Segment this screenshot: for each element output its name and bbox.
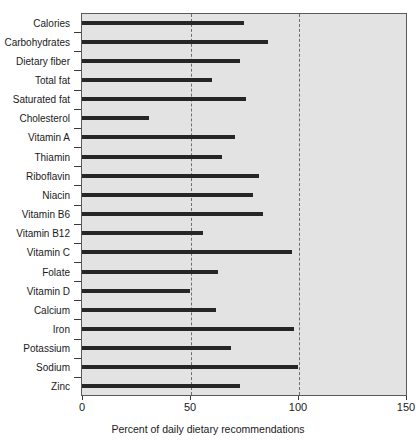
bar [82,78,212,82]
y-axis-label: Total fat [35,75,70,86]
bar [82,308,216,312]
bar [82,59,240,63]
y-axis-label: Riboflavin [26,170,70,181]
bar [82,155,222,159]
y-axis-label: Vitamin B12 [16,228,70,239]
y-axis-label: Folate [42,266,70,277]
y-tick [74,377,81,378]
y-tick [74,224,81,225]
bar [82,231,203,235]
x-axis-tick-label: 0 [79,400,85,414]
bars-layer [81,13,407,396]
bar [82,270,218,274]
bar [82,97,246,101]
y-tick [74,109,81,110]
y-tick [74,70,81,71]
y-axis-label: Calcium [34,304,70,315]
y-axis-label: Dietary fiber [16,55,70,66]
y-axis-label: Vitamin B6 [22,209,70,220]
y-axis-label: Vitamin D [27,285,70,296]
y-tick [74,300,81,301]
y-axis-label: Carbohydrates [4,36,70,47]
y-tick [74,185,81,186]
bar [82,289,190,293]
bar [82,116,149,120]
bar [82,327,294,331]
y-tick [74,339,81,340]
x-axis-tick-label: 100 [289,400,307,414]
y-axis-label: Sodium [36,362,70,373]
bar [82,135,235,139]
y-tick [74,51,81,52]
bar [82,174,259,178]
y-tick [74,147,81,148]
bar [82,193,253,197]
bar [82,21,244,25]
bar [82,250,292,254]
bar [82,40,268,44]
y-axis-label: Saturated fat [13,94,70,105]
y-tick [74,358,81,359]
y-tick [74,262,81,263]
x-axis-tick-labels: 050100150 [0,400,416,416]
bar [82,346,231,350]
y-tick [74,281,81,282]
y-axis-label: Calories [33,17,70,28]
bar [82,384,240,388]
nutrition-bar-chart: CaloriesCarbohydratesDietary fiberTotal … [0,0,416,442]
y-tick [74,243,81,244]
y-axis-label: Cholesterol [19,113,70,124]
x-axis-tick-label: 150 [397,400,415,414]
y-axis-label: Potassium [23,343,70,354]
bar [82,365,298,369]
x-axis-tick-label: 50 [184,400,196,414]
y-axis-label: Iron [53,323,70,334]
bar [82,212,263,216]
y-axis-label: Niacin [42,189,70,200]
y-tick [74,319,81,320]
y-tick [74,166,81,167]
y-tick [74,205,81,206]
y-axis-label: Vitamin A [28,132,70,143]
y-tick [74,90,81,91]
y-axis-label: Vitamin C [27,247,70,258]
y-axis-label: Zinc [51,381,70,392]
y-axis-label: Thiamin [34,151,70,162]
y-tick [74,32,81,33]
x-axis-title: Percent of daily dietary recommendations [0,423,416,436]
y-axis-labels: CaloriesCarbohydratesDietary fiberTotal … [0,13,73,396]
y-tick [74,128,81,129]
